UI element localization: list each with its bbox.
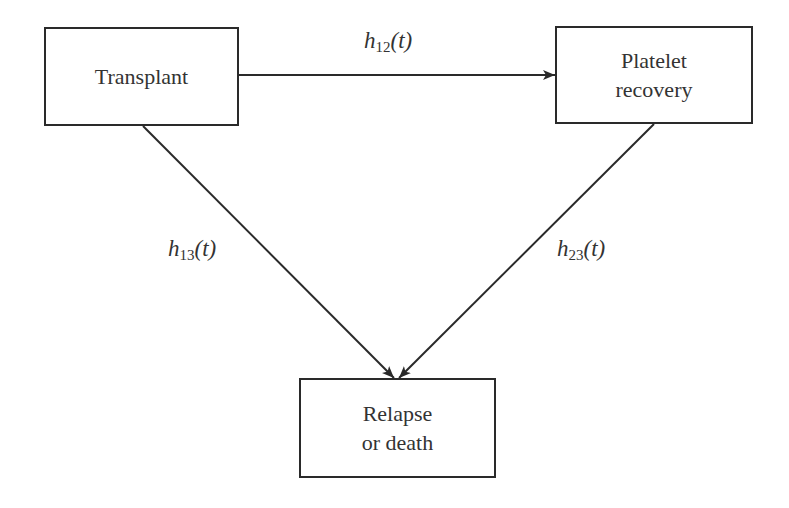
state-label-line: Relapse <box>363 399 433 428</box>
state-label-line: Platelet <box>621 46 687 75</box>
hazard-label-h12: h12(t) <box>364 28 412 54</box>
hazard-label-h23: h23(t) <box>557 236 605 262</box>
edge-platelet-recovery-to-relapse-or-death <box>399 124 654 378</box>
state-label-line: Transplant <box>95 62 188 91</box>
state-label-line: or death <box>362 428 433 457</box>
state-box-platelet-recovery: Platelet recovery <box>555 26 753 124</box>
state-box-transplant: Transplant <box>44 27 239 126</box>
state-label-line: recovery <box>616 75 693 104</box>
hazard-label-h13: h13(t) <box>168 236 216 262</box>
state-box-relapse-or-death: Relapse or death <box>299 378 496 478</box>
